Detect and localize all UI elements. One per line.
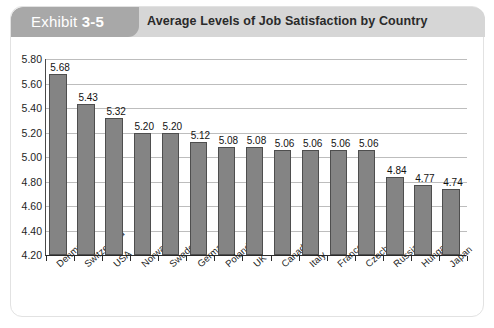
bar-slot: 5.20: [130, 59, 158, 255]
bar-slot: 5.32: [102, 59, 130, 255]
chart-bar[interactable]: [330, 150, 347, 255]
chart-bar[interactable]: [77, 104, 94, 255]
chart-bar[interactable]: [218, 147, 235, 255]
chart-bar[interactable]: [190, 142, 207, 255]
bar-slot: 5.68: [46, 59, 74, 255]
chart-bar[interactable]: [162, 133, 179, 256]
chart-bar[interactable]: [414, 185, 431, 255]
exhibit-header: Exhibit 3-5 Average Levels of Job Satisf…: [11, 7, 485, 37]
bar-slot: 4.84: [383, 59, 411, 255]
y-axis-tick-label: 4.20: [2, 249, 42, 261]
y-axis-tick-label: 5.80: [2, 53, 42, 65]
exhibit-tab-text: Exhibit 3-5: [31, 13, 104, 30]
bar-slot: 5.06: [355, 59, 383, 255]
x-axis-tick: [383, 256, 384, 261]
y-axis-tick-label: 4.80: [2, 176, 42, 188]
bar-slot: 5.12: [186, 59, 214, 255]
x-axis-tick: [158, 256, 159, 261]
x-axis-tick: [355, 256, 356, 261]
exhibit-number: 3-5: [82, 13, 104, 30]
bar-slot: 5.08: [242, 59, 270, 255]
x-axis-tick: [327, 256, 328, 261]
chart-bar[interactable]: [49, 74, 66, 255]
exhibit-card: Exhibit 3-5 Average Levels of Job Satisf…: [10, 6, 484, 317]
chart-bar[interactable]: [274, 150, 291, 255]
chart-area: 5.805.605.405.205.004.804.604.404.205.68…: [11, 37, 485, 317]
y-axis-tick-label: 5.20: [2, 127, 42, 139]
x-axis-tick: [102, 256, 103, 261]
bar-slot: 4.77: [411, 59, 439, 255]
x-axis-tick: [271, 256, 272, 261]
bar-slot: 5.06: [271, 59, 299, 255]
x-axis-tick: [74, 256, 75, 261]
bar-slot: 5.06: [327, 59, 355, 255]
x-axis-tick: [186, 256, 187, 261]
y-axis-tick-label: 5.00: [2, 151, 42, 163]
chart-bar[interactable]: [386, 177, 403, 255]
chart-bar[interactable]: [134, 133, 151, 256]
y-axis-tick-label: 5.40: [2, 102, 42, 114]
y-axis-tick-label: 4.60: [2, 200, 42, 212]
x-axis-tick: [411, 256, 412, 261]
chart-bar[interactable]: [105, 118, 122, 255]
x-axis-tick: [214, 256, 215, 261]
bar-slot: 4.74: [439, 59, 467, 255]
chart-bar[interactable]: [302, 150, 319, 255]
bar-slot: 5.20: [158, 59, 186, 255]
x-axis-tick: [242, 256, 243, 261]
y-axis-tick-label: 5.60: [2, 78, 42, 90]
x-axis-tick: [130, 256, 131, 261]
bar-value-label: 4.74: [431, 177, 475, 188]
page-title: Average Levels of Job Satisfaction by Co…: [147, 14, 428, 28]
bar-slot: 5.06: [299, 59, 327, 255]
chart-bar[interactable]: [358, 150, 375, 255]
chart-bar[interactable]: [442, 189, 459, 255]
x-axis-tick: [467, 256, 468, 261]
x-axis-tick: [46, 256, 47, 261]
bar-slot: 5.43: [74, 59, 102, 255]
chart-bar[interactable]: [246, 147, 263, 255]
plot-area: 5.805.605.405.205.004.804.604.404.205.68…: [45, 59, 466, 256]
exhibit-label: Exhibit: [31, 13, 77, 30]
x-axis-tick: [439, 256, 440, 261]
bar-slot: 5.08: [214, 59, 242, 255]
y-axis-tick-label: 4.40: [2, 225, 42, 237]
x-axis-tick: [299, 256, 300, 261]
